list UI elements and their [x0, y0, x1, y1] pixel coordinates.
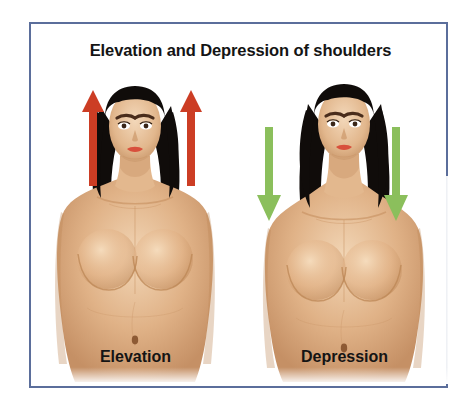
- arrow-up-right-icon: [180, 90, 202, 186]
- panel-elevation: Elevation: [31, 64, 240, 384]
- diagram-title: Elevation and Depression of shoulders: [31, 41, 450, 60]
- panel-depression: Depression: [240, 64, 449, 384]
- diagram-frame: Elevation and Depression of shoulders: [29, 22, 448, 388]
- body-illustration-elevation: [31, 64, 240, 384]
- arrow-down-right-icon: [384, 127, 408, 221]
- caption-depression: Depression: [240, 348, 449, 366]
- caption-elevation: Elevation: [31, 348, 240, 366]
- arrow-down-left-icon: [257, 127, 281, 221]
- arrow-up-left-icon: [82, 90, 104, 186]
- body-illustration-depression: [240, 64, 449, 384]
- illustration-root: Elevation and Depression of shoulders: [0, 0, 474, 406]
